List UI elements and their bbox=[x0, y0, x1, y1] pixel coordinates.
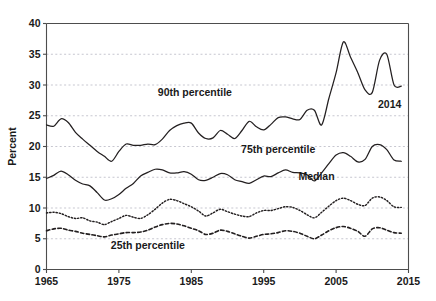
x-tick-label-1995: 1995 bbox=[252, 275, 276, 287]
y-axis-title: Percent bbox=[6, 127, 18, 166]
data-series bbox=[47, 42, 402, 239]
annotation-label-0: 90th percentile bbox=[158, 86, 232, 98]
y-tick-label-35: 35 bbox=[29, 48, 41, 60]
x-tick-label-2015: 2015 bbox=[397, 275, 421, 287]
x-tick-label-1965: 1965 bbox=[35, 275, 59, 287]
x-tick-label-1975: 1975 bbox=[107, 275, 131, 287]
series-annotations: 90th percentile75th percentileMedian25th… bbox=[111, 86, 402, 251]
x-tick-label-2005: 2005 bbox=[324, 275, 348, 287]
y-tick-label-0: 0 bbox=[35, 263, 41, 275]
annotation-label-3: 25th percentile bbox=[111, 239, 185, 251]
y-axis-tick-labels: 0510152025303540 bbox=[29, 17, 41, 275]
y-tick-label-40: 40 bbox=[29, 17, 41, 29]
series-line-2 bbox=[47, 197, 402, 225]
x-tick-label-1985: 1985 bbox=[180, 275, 204, 287]
annotation-label-1: 75th percentile bbox=[241, 143, 315, 155]
line-chart: 0510152025303540 19651975198519952005201… bbox=[0, 0, 436, 301]
y-tick-label-5: 5 bbox=[35, 232, 41, 244]
y-tick-label-15: 15 bbox=[29, 171, 41, 183]
y-tick-label-20: 20 bbox=[29, 140, 41, 152]
chart-container: 0510152025303540 19651975198519952005201… bbox=[0, 0, 436, 301]
y-tick-label-30: 30 bbox=[29, 79, 41, 91]
annotation-label-2: Median bbox=[298, 170, 334, 182]
series-line-0 bbox=[47, 42, 402, 162]
y-tick-label-10: 10 bbox=[29, 202, 41, 214]
series-line-3 bbox=[47, 223, 402, 238]
gridlines bbox=[47, 54, 409, 239]
x-axis-tick-labels: 196519751985199520052015 bbox=[35, 275, 421, 287]
annotation-label-4: 2014 bbox=[378, 98, 402, 110]
y-tick-label-25: 25 bbox=[29, 109, 41, 121]
